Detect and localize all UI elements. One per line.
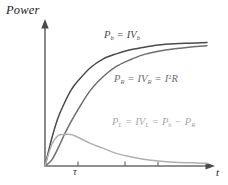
pl-equals-2: =: [151, 116, 159, 127]
pb-iv-sub: b: [137, 34, 140, 41]
y-axis-label: Power: [6, 3, 40, 18]
pl-p-sub: L: [118, 121, 122, 128]
x-tick-label-tau: τ: [73, 166, 77, 177]
y-axis-arrowhead: [41, 19, 48, 29]
pb-equals: =: [116, 29, 124, 40]
pl-pb-sub: b: [168, 121, 171, 128]
pb-iv: IV: [127, 29, 137, 40]
curve-pl: [45, 134, 207, 166]
pl-iv: IV: [135, 116, 145, 127]
curve-label-pl: PL = IVL = Pb − PR: [112, 117, 195, 128]
x-axis-label: t: [216, 166, 219, 178]
pr-p-sub: R: [120, 78, 124, 85]
pl-iv-sub: L: [145, 121, 149, 128]
pr-equals-1: =: [127, 73, 135, 84]
curve-label-pr: PR = IVR = I2R: [114, 74, 178, 85]
pr-r: R: [171, 73, 177, 84]
plot-canvas: [0, 0, 228, 185]
pl-pr-sub: R: [191, 121, 195, 128]
pb-p-sub: b: [110, 34, 113, 41]
curve-label-pb: Pb = IVb: [104, 30, 140, 41]
pr-iv: IV: [138, 73, 148, 84]
pl-equals-1: =: [125, 116, 133, 127]
power-vs-time-figure: Power t τ Pb = IVb PR = IVR = I2R PL = I…: [0, 0, 228, 185]
pr-equals-2: =: [154, 73, 162, 84]
curve-pr: [45, 46, 207, 166]
pl-minus: −: [174, 116, 182, 127]
pr-iv-sub: R: [148, 78, 152, 85]
